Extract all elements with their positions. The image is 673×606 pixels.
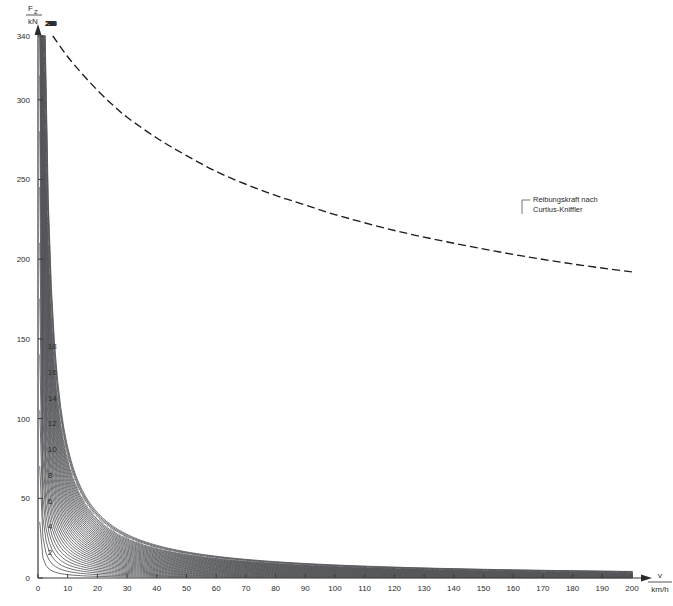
labels-group: 0102030405060708090100110120130140150160… <box>17 19 640 593</box>
annotation-line-2: Curtius-Kniffler <box>533 205 583 214</box>
x-tick-label: 100 <box>328 584 342 593</box>
power-curve <box>42 36 632 574</box>
y-tick-label: 50 <box>21 494 30 503</box>
power-curve <box>44 36 632 573</box>
power-curve <box>44 36 633 573</box>
x-tick-label: 140 <box>447 584 461 593</box>
x-axis-denominator: km/h <box>651 585 668 594</box>
power-curve <box>41 36 632 575</box>
power-curve-label: 2 <box>48 548 53 557</box>
x-tick-label: 120 <box>388 584 402 593</box>
power-curve-label: 12 <box>48 419 57 428</box>
power-curve <box>42 36 632 574</box>
power-curve <box>45 36 632 571</box>
power-curve <box>45 36 632 572</box>
power-curve <box>40 466 632 577</box>
power-curve <box>40 36 632 576</box>
power-curve <box>43 36 632 574</box>
x-tick-label: 40 <box>152 584 161 593</box>
x-tick-label: 160 <box>507 584 521 593</box>
y-tick-label: 0 <box>26 574 31 583</box>
x-axis-numerator: v <box>658 571 662 580</box>
y-axis-numerator: F <box>28 4 33 13</box>
power-curve <box>40 36 632 576</box>
power-curve <box>44 36 632 572</box>
chart-svg: 0102030405060708090100110120130140150160… <box>0 0 673 606</box>
y-tick-label: 300 <box>17 96 31 105</box>
power-curve-label: 16 <box>48 368 57 377</box>
x-tick-label: 50 <box>182 584 191 593</box>
x-tick-label: 150 <box>477 584 491 593</box>
x-axis-label: v km/h <box>648 571 672 594</box>
y-axis-subscript: Z <box>34 9 38 15</box>
power-curve <box>40 36 632 576</box>
x-tick-label: 200 <box>625 584 639 593</box>
power-curve-label: 18 <box>48 342 57 351</box>
power-curve <box>40 76 632 577</box>
power-curve <box>44 36 632 572</box>
power-curve <box>43 36 632 574</box>
power-curve <box>44 36 632 572</box>
power-curve <box>45 36 632 572</box>
power-curve <box>42 36 632 574</box>
x-tick-label: 170 <box>536 584 550 593</box>
y-axis-label: F Z kN <box>26 4 42 26</box>
power-curve <box>42 36 632 574</box>
x-tick-label: 90 <box>301 584 310 593</box>
annotation-line-1: Reibungskraft nach <box>533 195 598 204</box>
power-curve-label: 14 <box>48 394 57 403</box>
x-tick-label: 30 <box>123 584 132 593</box>
power-curve <box>41 36 632 575</box>
y-tick-label: 150 <box>17 335 31 344</box>
power-curve <box>44 36 632 573</box>
power-curve-label: 8 <box>48 471 53 480</box>
x-tick-label: 60 <box>212 584 221 593</box>
traction-force-chart: 0102030405060708090100110120130140150160… <box>0 0 673 606</box>
axes-group <box>35 24 652 581</box>
power-curve <box>41 36 632 575</box>
power-curve <box>41 36 632 575</box>
x-tick-label: 70 <box>241 584 250 593</box>
y-axis-denominator: kN <box>28 17 38 26</box>
power-curve <box>40 36 632 576</box>
y-tick-label: 340 <box>17 32 31 41</box>
x-tick-label: 0 <box>36 584 41 593</box>
curtius-kniffler-annotation: Reibungskraft nach Curtius-Kniffler <box>522 195 598 214</box>
power-curve <box>45 36 632 572</box>
power-curve <box>43 36 632 573</box>
power-curve <box>40 187 632 576</box>
y-tick-label: 100 <box>17 415 31 424</box>
curtius-kniffler-curve-group <box>53 36 632 272</box>
y-tick-label: 250 <box>17 175 31 184</box>
x-tick-label: 130 <box>417 584 431 593</box>
power-curve <box>42 36 632 575</box>
annotation-leader-line <box>522 200 530 214</box>
power-curve <box>40 243 632 577</box>
x-tick-label: 20 <box>93 584 102 593</box>
power-curve-label: 10 <box>48 445 57 454</box>
x-tick-label: 80 <box>271 584 280 593</box>
x-tick-label: 10 <box>63 584 72 593</box>
power-curve <box>43 36 632 573</box>
x-tick-label: 180 <box>566 584 580 593</box>
power-curve-label: 39 <box>48 19 57 28</box>
power-curve-label: 4 <box>48 522 53 531</box>
y-tick-label: 200 <box>17 255 31 264</box>
power-curves-group <box>40 36 632 578</box>
curtius-kniffler-curve <box>53 36 632 272</box>
power-curve <box>43 36 632 573</box>
x-tick-label: 110 <box>358 584 371 593</box>
power-curve-label: 6 <box>48 497 53 506</box>
power-curve <box>41 36 632 576</box>
x-tick-label: 190 <box>596 584 610 593</box>
power-curve <box>41 36 632 575</box>
